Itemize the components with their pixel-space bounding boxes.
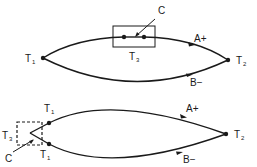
- top-c-arrowhead-icon: [135, 32, 140, 37]
- bottom-t1-lower-node: [47, 142, 51, 146]
- bottom-label-t1-upper-sub: 1: [51, 109, 55, 115]
- bottom-label-c: C: [5, 153, 12, 164]
- top-label-t2-sub: 2: [243, 61, 247, 67]
- top-t2-node: [226, 58, 230, 62]
- bottom-wire-a: [49, 110, 226, 134]
- bottom-label-t1-lower-sub: 1: [47, 155, 51, 161]
- top-t1-node: [41, 56, 45, 60]
- bottom-t1-upper-node: [47, 121, 51, 125]
- bottom-arrow-a-icon: [180, 114, 187, 119]
- bottom-label-t3-sub: 3: [9, 136, 13, 142]
- top-label-c: C: [158, 5, 165, 16]
- thermocouple-diagram: C A+ B− T 1 T 2 T 3 T 1 T 1: [0, 0, 257, 167]
- bottom-label-t2-sub: 2: [241, 135, 245, 141]
- bottom-t2-node: [224, 132, 228, 136]
- top-label-a: A+: [194, 33, 207, 44]
- top-label-t1: T: [25, 53, 31, 64]
- bottom-label-t1-lower: T: [40, 149, 46, 160]
- top-wire-a-right: [144, 37, 228, 60]
- bottom-label-t2: T: [234, 129, 240, 140]
- bottom-diagram: T 1 T 1 T 3 C A+ B− T 2: [2, 103, 245, 165]
- top-label-t1-sub: 1: [32, 59, 36, 65]
- bottom-label-t3: T: [2, 130, 8, 141]
- bottom-wire-junction-upper: [30, 123, 49, 133]
- top-label-t3: T: [129, 51, 135, 62]
- bottom-c-arrowhead-icon: [29, 140, 34, 145]
- top-c-leader: [136, 19, 155, 36]
- bottom-wire-junction-lower: [30, 133, 49, 144]
- top-diagram: C A+ B− T 1 T 2 T 3: [25, 5, 247, 88]
- top-label-t2: T: [236, 55, 242, 66]
- top-label-t3-sub: 3: [136, 57, 140, 63]
- bottom-label-b: B−: [183, 154, 196, 165]
- top-wire-a-left: [43, 37, 124, 58]
- top-junction-node-left: [122, 35, 126, 39]
- top-label-b: B−: [190, 77, 203, 88]
- bottom-label-t1-upper: T: [44, 103, 50, 114]
- bottom-label-a: A+: [186, 103, 199, 114]
- bottom-wire-b: [49, 134, 226, 158]
- bottom-arrow-b-icon: [176, 152, 183, 156]
- top-junction-node-right: [142, 35, 146, 39]
